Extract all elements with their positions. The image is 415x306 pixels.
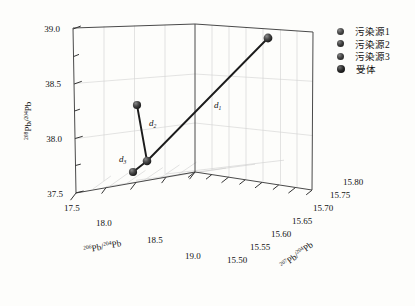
distance-label-d1: d1 (214, 100, 222, 111)
axes-box-outline (73, 24, 313, 193)
sphere-marker-icon (337, 53, 344, 60)
x-tick-labels: 17.5 18.0 18.5 19.0 (64, 203, 201, 261)
plot-3d-scatter: d1 d2 d3 39.0 38.5 38.0 37.5 17.5 18.0 1… (0, 0, 415, 306)
data-point-source-3[interactable] (129, 168, 137, 176)
sphere-marker-icon (337, 40, 344, 47)
legend-label: 受体 (356, 62, 376, 76)
data-point-source-1[interactable] (133, 101, 141, 109)
legend-item-source-1[interactable]: 污染源1 (337, 25, 390, 38)
y-axis-title: 208Pb/204Pb (23, 101, 33, 140)
y-tick-label: 38.0 (46, 134, 62, 144)
sphere-marker-icon (337, 28, 344, 35)
z-tick-label: 15.65 (292, 216, 313, 226)
x-tick-label: 18.0 (96, 218, 112, 228)
distance-line-d2 (137, 105, 147, 161)
data-point-receptor[interactable] (264, 34, 273, 43)
legend-item-source-3[interactable]: 污染源3 (337, 50, 390, 63)
sphere-marker-icon (337, 65, 345, 73)
x-tick-label: 19.0 (185, 251, 201, 261)
z-tick-label: 15.55 (250, 242, 271, 252)
legend: 污染源1 污染源2 污染源3 受体 (337, 25, 390, 75)
y-tick-label: 39.0 (44, 24, 60, 34)
y-tick-label: 38.5 (45, 79, 61, 89)
z-axis-ticks (188, 172, 312, 195)
distance-lines (133, 38, 268, 172)
legend-item-source-2[interactable]: 污染源2 (337, 38, 390, 51)
legend-item-receptor[interactable]: 受体 (337, 63, 390, 76)
z-tick-label: 15.80 (343, 177, 364, 187)
distance-label-d3: d3 (119, 154, 127, 165)
z-axis-title: 207Pb/204Pb (278, 239, 315, 271)
z-tick-label: 15.70 (313, 203, 334, 213)
z-tick-label: 15.50 (227, 255, 248, 265)
back-right-wall-grid (195, 25, 313, 187)
z-tick-label: 15.75 (330, 190, 351, 200)
distance-label-d2: d2 (149, 118, 157, 129)
x-axis-title: 206Pb/204Pb (82, 238, 122, 255)
x-tick-label: 18.5 (147, 235, 163, 245)
data-point-source-2[interactable] (143, 157, 152, 166)
x-axis-ticks (71, 172, 196, 200)
z-tick-label: 15.60 (271, 229, 292, 239)
x-tick-label: 17.5 (64, 203, 80, 213)
y-tick-labels: 39.0 38.5 38.0 37.5 (44, 24, 63, 199)
y-tick-label: 37.5 (47, 189, 63, 199)
